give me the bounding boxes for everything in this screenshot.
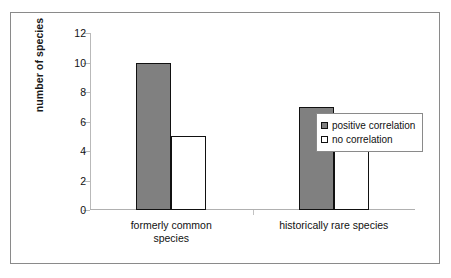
category-label-line: formerly common [90, 219, 253, 232]
y-tick-label: 12 [74, 27, 86, 39]
category-label-line: historically rare species [253, 219, 416, 232]
y-tick-label: 2 [80, 175, 86, 187]
y-tick-label: 10 [74, 57, 86, 69]
category-label: historically rare species [253, 219, 416, 232]
legend-label: positive correlation [332, 120, 415, 131]
y-tick-label: 0 [80, 204, 86, 216]
category-separator-tick [253, 210, 254, 215]
bar [171, 136, 206, 210]
chart-frame: number of species 024681012 formerly com… [10, 12, 440, 264]
y-axis-title: number of species [33, 0, 45, 135]
legend-swatch-icon [321, 136, 328, 143]
legend-item[interactable]: no correlation [321, 133, 417, 146]
chart-legend: positive correlationno correlation [316, 113, 423, 152]
category-label: formerly commonspecies [90, 219, 253, 245]
y-tick-label: 8 [80, 86, 86, 98]
legend-swatch-icon [321, 122, 328, 129]
category-label-line: species [90, 232, 253, 245]
legend-label: no correlation [332, 134, 393, 145]
y-tick-label: 4 [80, 145, 86, 157]
y-tick-label: 6 [80, 116, 86, 128]
y-axis-line [90, 33, 91, 210]
legend-item[interactable]: positive correlation [321, 119, 417, 132]
bar [136, 63, 171, 211]
